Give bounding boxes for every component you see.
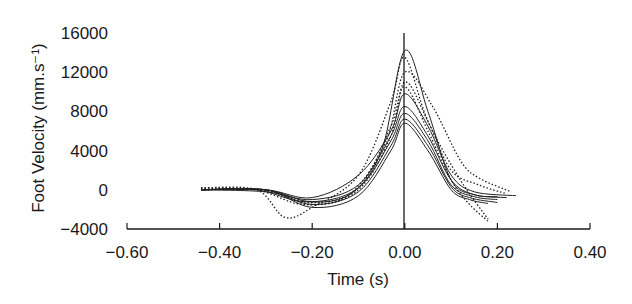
x-tick-label: 0.00 xyxy=(388,243,421,262)
y-tick-label: 8000 xyxy=(70,102,108,121)
x-tick-label: −0.40 xyxy=(198,243,241,262)
y-tick-label: 4000 xyxy=(70,142,108,161)
x-tick-label: 0.20 xyxy=(481,243,514,262)
y-tick-label: 0 xyxy=(99,181,108,200)
x-tick-label: −0.60 xyxy=(105,243,148,262)
y-axis-title: Foot Velocity (mm.s⁻¹) xyxy=(29,43,48,213)
trial-velocity-trace xyxy=(201,94,516,198)
x-axis-title: Time (s) xyxy=(327,270,389,289)
trial-velocity-trace xyxy=(201,57,488,219)
y-tick-label: 16000 xyxy=(61,24,108,43)
trial-velocity-trace xyxy=(201,71,511,204)
foot-velocity-chart: −0.60−0.40−0.200.000.200.40 160001200080… xyxy=(0,0,632,304)
trial-velocity-trace xyxy=(201,87,488,221)
x-tick-label: 0.40 xyxy=(573,243,606,262)
x-tick-label: −0.20 xyxy=(291,243,334,262)
plot-lines xyxy=(201,50,516,221)
trial-velocity-trace xyxy=(201,50,497,202)
y-axis-tick-labels: 1600012000800040000−4000 xyxy=(60,24,108,239)
y-tick-label: −4000 xyxy=(60,220,108,239)
y-tick-label: 12000 xyxy=(61,63,108,82)
